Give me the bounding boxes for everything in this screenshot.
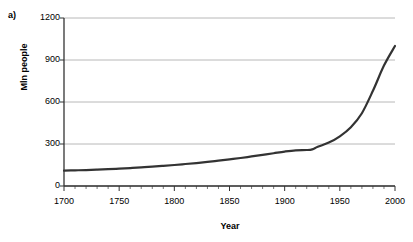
- x-tick-label: 1850: [210, 196, 250, 206]
- x-axis-tick-labels: 1700175018001850190019502000: [0, 0, 413, 242]
- x-tick-label: 1950: [320, 196, 360, 206]
- x-tick-label: 2000: [375, 196, 413, 206]
- x-tick-label: 1750: [99, 196, 139, 206]
- chart-figure: a) Mln people Year 03006009001200 170017…: [0, 0, 413, 242]
- x-tick-label: 1900: [265, 196, 305, 206]
- x-tick-label: 1700: [44, 196, 84, 206]
- x-tick-label: 1800: [154, 196, 194, 206]
